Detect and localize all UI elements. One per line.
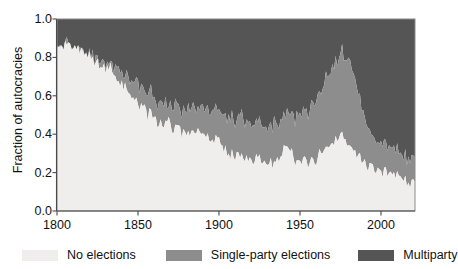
legend-swatch-single-party	[166, 250, 202, 261]
legend-label-no-elections: No elections	[67, 248, 136, 262]
legend-swatch-no-elections	[22, 250, 58, 261]
chart-legend: No elections Single-party elections Mult…	[0, 246, 427, 264]
legend-item-multiparty: Multiparty	[358, 248, 457, 262]
legend-label-single-party: Single-party elections	[211, 248, 331, 262]
legend-swatch-multiparty	[358, 250, 394, 261]
legend-item-no-elections: No elections	[22, 248, 136, 262]
legend-item-single-party: Single-party elections	[166, 248, 331, 262]
legend-label-multiparty: Multiparty	[403, 248, 457, 262]
